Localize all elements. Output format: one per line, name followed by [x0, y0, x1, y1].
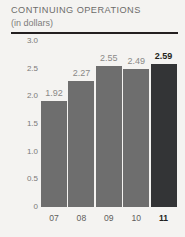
y-axis-tick: 1.5	[0, 120, 38, 128]
bar-series: 1.922.272.552.492.59	[41, 41, 178, 207]
chart-card: CONTINUING OPERATIONS (in dollars) 3.02.…	[0, 0, 185, 237]
chart-subtitle: (in dollars)	[11, 17, 179, 29]
x-axis-tick: 10	[123, 213, 149, 223]
bar-column[interactable]: 2.27	[68, 41, 94, 207]
bar[interactable]	[41, 101, 67, 207]
bar-value-label: 2.59	[145, 52, 183, 61]
x-axis: 0708091011	[41, 213, 178, 229]
bar-column[interactable]: 2.59	[151, 41, 177, 207]
bar-value-label: 1.92	[35, 89, 73, 98]
bar-column[interactable]: 1.92	[41, 41, 67, 207]
y-axis-tick: 2.0	[0, 92, 38, 100]
bar[interactable]	[123, 69, 149, 207]
y-axis-tick: 0.5	[0, 175, 38, 183]
bar[interactable]	[68, 81, 94, 207]
y-axis-tick: 1.0	[0, 148, 38, 156]
y-axis-tick: 2.5	[0, 65, 38, 73]
bar-value-label: 2.27	[62, 69, 100, 78]
bar[interactable]	[96, 66, 122, 207]
x-axis-tick: 11	[151, 213, 177, 223]
x-axis-tick: 08	[68, 213, 94, 223]
y-axis-tick: 0	[0, 203, 38, 211]
plot-area: 3.02.52.01.51.00.50 1.922.272.552.492.59…	[0, 41, 185, 237]
header-divider	[11, 32, 178, 34]
page-title: CONTINUING OPERATIONS	[11, 4, 179, 16]
bar-column[interactable]: 2.49	[123, 41, 149, 207]
y-axis: 3.02.52.01.51.00.50	[0, 41, 38, 213]
bar[interactable]	[151, 64, 177, 207]
x-axis-tick: 09	[96, 213, 122, 223]
y-axis-tick: 3.0	[0, 37, 38, 45]
x-axis-tick: 07	[41, 213, 67, 223]
chart-header: CONTINUING OPERATIONS (in dollars)	[11, 4, 179, 29]
